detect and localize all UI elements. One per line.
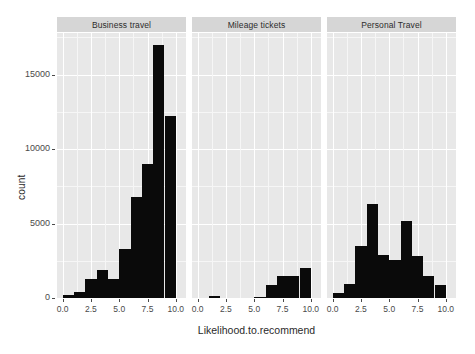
gridline-vertical-minor bbox=[347, 33, 348, 298]
gridline-vertical bbox=[311, 33, 312, 298]
gridline-vertical bbox=[63, 33, 64, 298]
gridline-vertical bbox=[176, 33, 177, 298]
histogram-bar bbox=[355, 246, 366, 298]
x-axis-tick-mark bbox=[389, 299, 390, 302]
histogram-bar bbox=[63, 295, 74, 298]
histogram-bar bbox=[378, 255, 389, 298]
histogram-bar bbox=[423, 276, 434, 298]
gridline-vertical bbox=[333, 33, 334, 298]
x-axis-label: Likelihood.to.recommend bbox=[57, 324, 456, 336]
x-axis-tick-mark bbox=[63, 299, 64, 302]
y-axis-tick-label: 5000 bbox=[14, 218, 50, 228]
histogram-bar bbox=[344, 284, 355, 298]
histogram-bar bbox=[412, 256, 423, 298]
histogram-bar bbox=[153, 45, 164, 298]
x-axis-tick-label: 5.0 bbox=[105, 304, 133, 314]
gridline-vertical bbox=[91, 33, 92, 298]
facet-strip-label: Business travel bbox=[57, 17, 186, 32]
histogram-bar bbox=[389, 260, 400, 298]
x-axis-tick-label: 7.5 bbox=[134, 304, 162, 314]
x-axis-tick-label: 0.0 bbox=[184, 304, 212, 314]
y-axis-tick-mark bbox=[52, 149, 55, 150]
histogram-bar bbox=[300, 268, 311, 298]
gridline-vertical-minor bbox=[432, 33, 433, 298]
x-axis-tick-label: 5.0 bbox=[375, 304, 403, 314]
histogram-bar bbox=[288, 276, 299, 298]
gridline-vertical-minor bbox=[240, 33, 241, 298]
gridline-vertical bbox=[226, 33, 227, 298]
y-axis-tick-mark bbox=[52, 224, 55, 225]
gridline-vertical-minor bbox=[212, 33, 213, 298]
x-axis-tick-label: 7.5 bbox=[404, 304, 432, 314]
histogram-bar bbox=[209, 296, 220, 298]
faceted-histogram-chart: count050001000015000Business travel0.02.… bbox=[0, 0, 475, 354]
histogram-bar bbox=[85, 279, 96, 298]
gridline-vertical-minor bbox=[268, 33, 269, 298]
x-axis-tick-label: 2.5 bbox=[212, 304, 240, 314]
x-axis-tick-mark bbox=[446, 299, 447, 302]
histogram-bar bbox=[333, 293, 344, 298]
y-axis-tick-mark bbox=[52, 298, 55, 299]
x-axis-tick-label: 5.0 bbox=[240, 304, 268, 314]
x-axis-tick-label: 0.0 bbox=[319, 304, 347, 314]
histogram-bar bbox=[277, 276, 288, 298]
x-axis-tick-label: 10.0 bbox=[432, 304, 460, 314]
facet-strip-label: Mileage tickets bbox=[192, 17, 321, 32]
x-axis-tick-label: 7.5 bbox=[269, 304, 297, 314]
x-axis-tick-mark bbox=[226, 299, 227, 302]
x-axis-tick-mark bbox=[418, 299, 419, 302]
gridline-vertical bbox=[446, 33, 447, 298]
y-axis-tick-label: 10000 bbox=[14, 143, 50, 153]
histogram-bar bbox=[108, 279, 119, 298]
x-axis-tick-mark bbox=[148, 299, 149, 302]
histogram-bar bbox=[367, 204, 378, 298]
facet-strip-label: Personal Travel bbox=[327, 17, 456, 32]
x-axis-tick-label: 0.0 bbox=[49, 304, 77, 314]
x-axis-tick-mark bbox=[176, 299, 177, 302]
x-axis-tick-mark bbox=[333, 299, 334, 302]
y-axis-tick-mark bbox=[52, 75, 55, 76]
gridline-vertical-minor bbox=[105, 33, 106, 298]
gridline-vertical bbox=[254, 33, 255, 298]
gridline-vertical bbox=[198, 33, 199, 298]
histogram-bar bbox=[435, 285, 446, 298]
y-axis-tick-label: 15000 bbox=[14, 69, 50, 79]
facet-panel-2 bbox=[192, 33, 321, 298]
histogram-bar bbox=[266, 285, 277, 298]
histogram-bar bbox=[165, 116, 176, 298]
histogram-bar bbox=[131, 197, 142, 298]
gridline-vertical-minor bbox=[77, 33, 78, 298]
histogram-bar bbox=[119, 249, 130, 298]
x-axis-tick-mark bbox=[254, 299, 255, 302]
x-axis-tick-label: 2.5 bbox=[77, 304, 105, 314]
histogram-bar bbox=[97, 270, 108, 298]
facet-panel-1 bbox=[57, 33, 186, 298]
gridline-vertical bbox=[283, 33, 284, 298]
gridline-vertical bbox=[389, 33, 390, 298]
x-axis-tick-mark bbox=[283, 299, 284, 302]
histogram-bar bbox=[401, 221, 412, 298]
gridline-vertical-minor bbox=[297, 33, 298, 298]
histogram-bar bbox=[74, 292, 85, 298]
x-axis-tick-mark bbox=[119, 299, 120, 302]
x-axis-tick-mark bbox=[361, 299, 362, 302]
x-axis-tick-label: 2.5 bbox=[347, 304, 375, 314]
histogram-bar bbox=[142, 164, 153, 298]
y-axis-label: count bbox=[16, 175, 27, 200]
y-axis-tick-label: 0 bbox=[14, 292, 50, 302]
x-axis-tick-mark bbox=[198, 299, 199, 302]
x-axis-tick-mark bbox=[91, 299, 92, 302]
histogram-bar bbox=[254, 297, 265, 298]
facet-panel-3 bbox=[327, 33, 456, 298]
x-axis-tick-mark bbox=[311, 299, 312, 302]
